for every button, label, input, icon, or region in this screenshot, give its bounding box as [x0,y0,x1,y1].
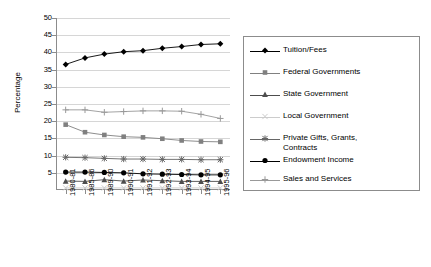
data-point-triangle [262,92,268,98]
data-point-diamond [82,55,88,61]
plot-area [56,18,230,190]
y-axis-tick-label: 20 [44,117,52,125]
y-axis-tick-mark [52,52,56,53]
data-point-diamond [198,41,204,47]
legend-label: Federal Governments [280,67,360,77]
data-point-star [82,155,88,161]
series-0 [63,41,224,68]
data-point-circle [262,158,267,163]
legend-item[interactable]: Tuition/Fees [250,45,327,56]
legend-label: Sales and Services [280,174,351,184]
y-axis-tick-label: 35 [44,66,52,74]
legend-marker-diamond-icon [250,46,280,56]
chart-legend: Tuition/FeesFederal GovernmentsState Gov… [243,36,420,191]
y-axis-tick-label: 30 [44,83,52,91]
data-point-plus [101,109,107,115]
y-axis-tick-mark [52,156,56,157]
data-point-plus [262,176,268,182]
data-point-diamond [217,41,223,47]
legend-marker-glyph [261,134,269,143]
data-point-diamond [140,48,146,54]
y-axis-tick-mark [52,70,56,71]
data-point-diamond [159,45,165,51]
series-1 [63,122,222,144]
series-lines [56,18,230,190]
data-point-square [83,130,88,135]
data-point-diamond [262,48,268,54]
y-axis-tick-mark [52,87,56,88]
y-axis-tick-mark [52,173,56,174]
data-point-star [217,157,223,163]
data-point-star [121,156,127,162]
data-point-square [160,136,165,141]
x-axis-tick-mark [124,190,125,194]
legend-item[interactable]: Local Government [250,111,348,122]
legend-label: Tuition/Fees [280,45,327,55]
y-axis-tick-mark [52,138,56,139]
series-4 [63,154,224,163]
data-point-square [218,140,223,145]
y-axis-tick-label: 15 [44,134,52,142]
x-axis-tick-label: 1995-96 [223,168,231,196]
data-point-plus [140,108,146,114]
data-point-plus [62,107,68,113]
y-axis-tick-label: 45 [44,31,52,39]
x-axis-tick-label: 1993-94 [185,168,193,196]
data-point-diamond [179,44,185,50]
data-point-star [140,156,146,162]
legend-marker-glyph [261,156,269,165]
legend-item[interactable]: Endowment Income [250,155,354,166]
data-point-plus [217,115,223,121]
data-point-square [102,133,107,138]
x-axis-tick-mark [66,190,67,194]
legend-marker-x-icon [250,112,280,122]
data-point-star [101,155,107,161]
legend-item[interactable]: State Government [250,89,348,100]
line-chart: 5045403530252015105 Percentage Tuition/F… [0,0,431,267]
data-point-star [179,156,185,162]
y-axis-title: Percentage [13,38,22,148]
data-point-diamond [101,51,107,57]
legend-item[interactable]: Federal Governments [250,67,360,78]
legend-label: State Government [280,89,348,99]
y-axis-tick-label: 50 [44,14,52,22]
data-point-square [263,70,268,75]
series-6 [62,107,223,122]
data-point-star [262,135,268,141]
legend-label: Endowment Income [280,155,354,165]
y-axis-tick-mark [52,35,56,36]
legend-marker-circle-icon [250,156,280,166]
y-axis-tick-mark [52,104,56,105]
data-point-square [141,135,146,140]
legend-label: Local Government [280,111,348,121]
x-axis-tick-label: 1985-86 [88,168,96,196]
x-axis-tick-label: 1990-91 [127,168,135,196]
legend-marker-square-icon [250,68,280,78]
data-point-plus [159,108,165,114]
data-point-star [198,157,204,163]
data-point-diamond [63,61,69,67]
y-axis-tick-mark [52,121,56,122]
data-point-square [199,139,204,144]
legend-marker-glyph [261,68,269,77]
x-axis-tick-label: 1992-93 [165,168,173,196]
data-point-plus [82,107,88,113]
legend-marker-glyph [261,90,269,99]
x-axis-tick-label: 1991-92 [146,168,154,196]
x-axis-tick-mark [143,190,144,194]
series-line [66,44,221,65]
data-point-plus [198,111,204,117]
x-axis-tick-mark [201,190,202,194]
legend-marker-glyph [261,175,269,184]
y-axis-tick-mark [52,18,56,19]
data-point-diamond [121,49,127,55]
legend-marker-glyph [261,112,269,121]
legend-item[interactable]: Private Gifts, Grants, Contracts [250,133,357,152]
legend-marker-plus-icon [250,175,280,185]
x-axis-tick-mark [182,190,183,194]
legend-item[interactable]: Sales and Services [250,174,351,185]
data-point-square [121,134,126,139]
x-axis-tick-label: 1994-95 [204,168,212,196]
y-axis-tick-label: 10 [44,152,52,160]
legend-marker-triangle-icon [250,90,280,100]
